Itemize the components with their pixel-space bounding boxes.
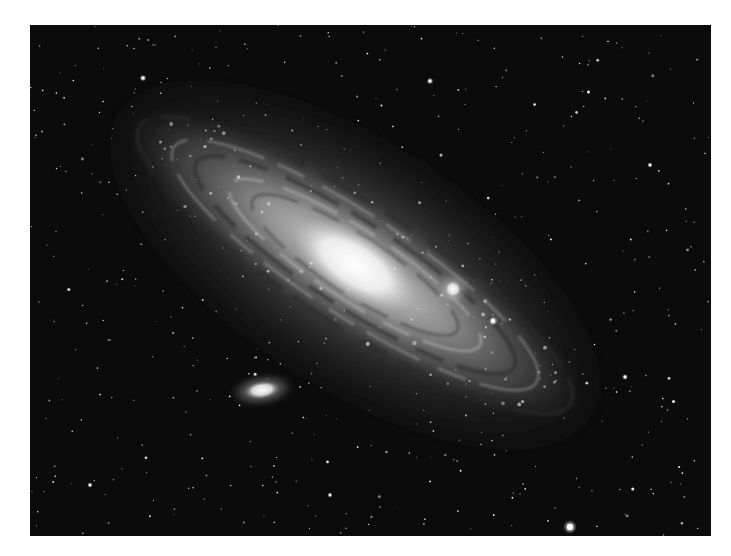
- star: [336, 418, 337, 419]
- star: [199, 63, 200, 64]
- star: [385, 451, 387, 453]
- star: [610, 148, 611, 149]
- star: [357, 446, 359, 448]
- star: [685, 220, 686, 221]
- star: [56, 92, 58, 94]
- star: [524, 488, 526, 490]
- star: [502, 185, 503, 186]
- star: [478, 40, 479, 41]
- star: [196, 390, 198, 392]
- star: [295, 481, 297, 483]
- star: [583, 106, 585, 108]
- star: [60, 166, 61, 167]
- star: [152, 44, 154, 46]
- star-cluster: [189, 155, 191, 157]
- star-cluster: [310, 190, 312, 192]
- star: [625, 514, 626, 515]
- star-cluster: [485, 326, 487, 328]
- star: [106, 280, 108, 282]
- star: [626, 514, 629, 517]
- star: [576, 478, 578, 480]
- star: [587, 91, 590, 94]
- star: [703, 261, 705, 263]
- star: [121, 278, 123, 280]
- star: [247, 48, 248, 49]
- star-cluster: [410, 318, 413, 321]
- star: [104, 494, 105, 495]
- star: [668, 377, 671, 380]
- star-cluster: [236, 175, 240, 179]
- star: [470, 528, 471, 529]
- star: [668, 315, 670, 317]
- star: [511, 497, 513, 499]
- star: [314, 434, 315, 435]
- star: [230, 485, 232, 487]
- star: [522, 173, 523, 174]
- star: [41, 131, 43, 133]
- star: [708, 137, 709, 138]
- star: [48, 400, 50, 402]
- star: [519, 493, 520, 494]
- star: [138, 38, 140, 40]
- star: [621, 98, 623, 100]
- star-cluster: [255, 263, 257, 265]
- star: [596, 211, 598, 213]
- star: [37, 511, 38, 512]
- star: [204, 498, 206, 500]
- star: [526, 130, 527, 131]
- star-cluster: [461, 265, 464, 268]
- star: [71, 483, 72, 484]
- star: [502, 77, 504, 79]
- star: [672, 400, 675, 403]
- star: [215, 47, 216, 48]
- star: [94, 26, 95, 27]
- star: [661, 406, 663, 408]
- star: [536, 176, 538, 178]
- star: [396, 506, 397, 507]
- star: [660, 35, 661, 36]
- star: [284, 62, 285, 63]
- star: [707, 301, 709, 303]
- bright-star: [141, 76, 144, 79]
- star: [585, 263, 587, 265]
- star: [172, 332, 175, 335]
- star: [31, 491, 32, 492]
- star-cluster: [483, 335, 486, 338]
- star: [704, 153, 706, 155]
- star: [192, 365, 194, 367]
- star: [134, 285, 135, 286]
- star-cluster: [425, 312, 426, 313]
- star: [409, 452, 410, 453]
- star: [346, 513, 347, 514]
- star: [456, 460, 457, 461]
- star: [34, 137, 35, 138]
- star-cluster: [227, 197, 229, 199]
- star-cluster: [501, 401, 505, 405]
- star: [385, 49, 387, 51]
- star-cluster: [543, 385, 546, 388]
- star-cluster: [553, 381, 556, 384]
- star: [188, 487, 189, 488]
- star: [375, 98, 376, 99]
- star: [587, 64, 589, 66]
- star: [244, 44, 245, 45]
- star: [493, 514, 495, 516]
- star: [50, 320, 51, 321]
- star-cluster: [195, 179, 196, 180]
- star-cluster: [429, 374, 431, 376]
- star: [81, 157, 84, 160]
- star: [276, 492, 278, 494]
- star: [300, 35, 302, 37]
- star: [411, 25, 412, 26]
- star: [522, 483, 524, 485]
- star: [326, 460, 329, 463]
- star-cluster: [205, 129, 207, 131]
- star: [696, 59, 698, 61]
- star: [46, 245, 47, 246]
- star: [554, 507, 555, 508]
- star: [690, 246, 691, 247]
- star: [661, 421, 663, 423]
- star: [368, 524, 369, 525]
- star: [121, 468, 123, 470]
- star: [571, 116, 572, 117]
